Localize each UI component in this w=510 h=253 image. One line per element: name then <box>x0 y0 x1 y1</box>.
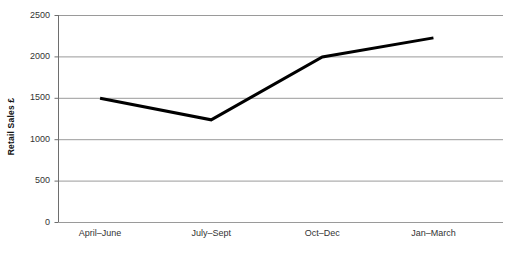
line-chart: Retail Sales £ 05001000150020002500 Apri… <box>0 0 510 253</box>
axis-ticks <box>55 16 59 223</box>
plot-area <box>0 0 510 253</box>
gridlines <box>59 16 504 223</box>
data-series-line <box>100 38 433 120</box>
